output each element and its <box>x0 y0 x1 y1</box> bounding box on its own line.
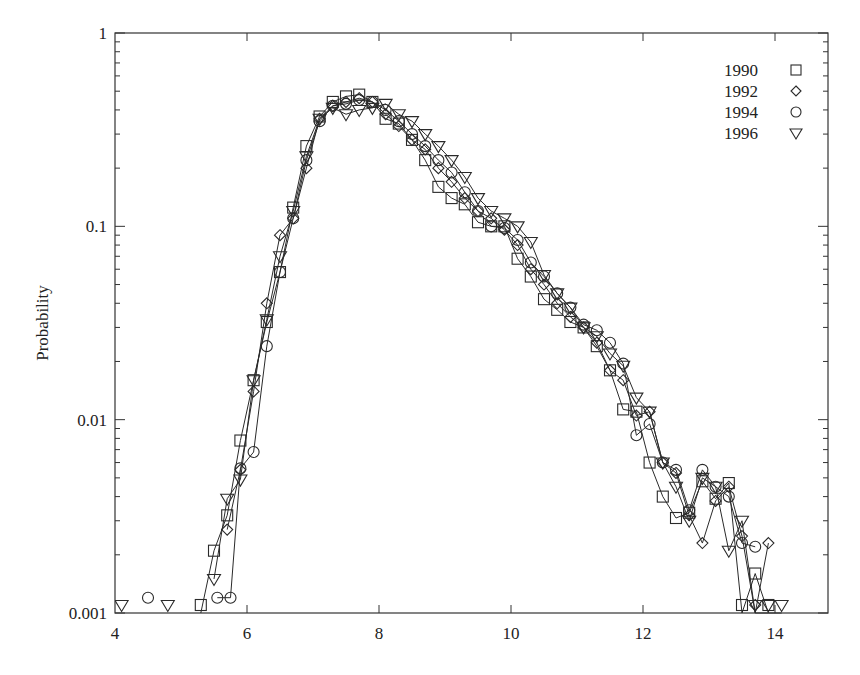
series-1990 <box>195 89 774 613</box>
x-tick-label: 14 <box>767 624 785 643</box>
legend-circle-icon <box>791 107 801 117</box>
x-tick-label: 10 <box>503 624 520 643</box>
x-tick-label: 4 <box>111 624 120 643</box>
y-tick-label: 0.01 <box>77 411 107 430</box>
x-tick-label: 6 <box>243 624 252 643</box>
series-layer <box>115 89 788 613</box>
probability-chart: 4681012140.0010.010.11 Probability 19901… <box>0 0 860 675</box>
legend-triangle-down-icon <box>790 129 802 139</box>
legend-square-icon <box>791 65 801 75</box>
y-tick-label: 0.001 <box>69 604 107 623</box>
legend-label: 1990 <box>724 61 758 80</box>
axis-ticks <box>115 33 828 613</box>
x-tick-label: 8 <box>375 624 384 643</box>
axis-tick-labels: 4681012140.0010.010.11 <box>69 24 784 643</box>
y-tick-label: 0.1 <box>86 217 107 236</box>
legend-label: 1996 <box>724 124 758 143</box>
legend-label: 1994 <box>724 103 759 122</box>
legend-diamond-icon <box>791 86 801 96</box>
x-tick-label: 12 <box>635 624 652 643</box>
series-1992 <box>222 93 774 613</box>
legend: 1990199219941996 <box>724 61 802 143</box>
plot-frame <box>115 33 828 613</box>
series-1994 <box>143 95 761 604</box>
legend-label: 1992 <box>724 82 758 101</box>
plot-area <box>115 89 788 613</box>
y-axis-label: Probability <box>33 285 52 361</box>
y-tick-label: 1 <box>99 24 108 43</box>
